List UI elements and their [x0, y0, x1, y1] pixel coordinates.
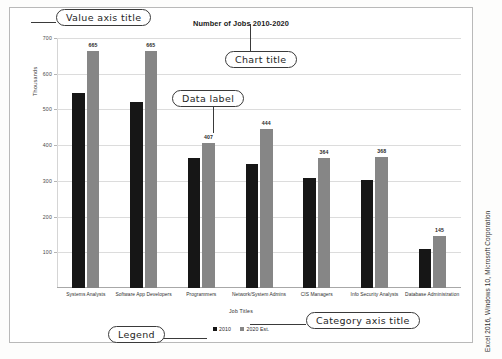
- leader-legend: [163, 338, 207, 339]
- gridline: [57, 109, 461, 110]
- category-axis-label: Programmers: [171, 291, 231, 299]
- bar-2020Est-1[interactable]: [145, 51, 158, 289]
- legend-swatch-icon: [240, 327, 244, 331]
- data-label: 665: [89, 42, 98, 48]
- category-axis-label: Info Security Analysts: [344, 291, 404, 299]
- category-axis-label: CIS Managers: [287, 291, 347, 299]
- screenshot-root: Number of Jobs 2010-2020 Thousands 10020…: [0, 0, 502, 359]
- bar-2020Est-3[interactable]: [260, 129, 273, 288]
- value-axis-title[interactable]: Thousands: [32, 67, 38, 96]
- plot-area[interactable]: 100200300400500600700665Systems Analysts…: [57, 38, 461, 288]
- value-axis-tick-label: 400: [43, 142, 52, 148]
- legend-swatch-icon: [213, 327, 217, 331]
- tick-mark: [54, 217, 57, 218]
- legend-label: 2010: [219, 326, 231, 332]
- gridline: [57, 181, 461, 182]
- callout-data-label: Data label: [172, 90, 244, 107]
- bar-2010-3[interactable]: [246, 164, 259, 288]
- gridline: [57, 217, 461, 218]
- data-label: 665: [146, 42, 155, 48]
- bar-2010-0[interactable]: [72, 93, 85, 288]
- callout-category-axis-title: Category axis title: [306, 312, 420, 329]
- value-axis-tick-label: 600: [43, 71, 52, 77]
- tick-mark: [54, 38, 57, 39]
- category-axis-line: [57, 287, 461, 288]
- gridline: [57, 145, 461, 146]
- tick-mark: [54, 181, 57, 182]
- leader-value-axis-title: [31, 22, 56, 23]
- legend-item-0[interactable]: 2010: [213, 326, 231, 332]
- bar-2020Est-5[interactable]: [375, 157, 388, 288]
- bar-2010-6[interactable]: [419, 249, 432, 288]
- legend-item-1[interactable]: 2020 Est.: [240, 326, 269, 332]
- bar-2020Est-6[interactable]: [433, 236, 446, 288]
- value-axis-tick-label: 700: [43, 35, 52, 41]
- gridline: [57, 74, 461, 75]
- value-axis-tick-label: 300: [43, 178, 52, 184]
- bar-2020Est-2[interactable]: [202, 143, 215, 288]
- gridline: [57, 252, 461, 253]
- callout-value-axis-title: Value axis title: [56, 9, 151, 26]
- value-axis-tick-label: 100: [43, 249, 52, 255]
- category-axis-label: Network/System Admins: [229, 291, 289, 299]
- bar-2010-2[interactable]: [188, 158, 201, 288]
- tick-mark: [54, 74, 57, 75]
- bar-2010-5[interactable]: [361, 180, 374, 288]
- source-credit: Excel 2016, Windows 10, Microsoft Corpor…: [484, 211, 491, 352]
- callout-chart-title: Chart title: [225, 51, 297, 68]
- data-label: 444: [262, 120, 271, 126]
- legend-label: 2020 Est.: [247, 326, 270, 332]
- leader-chart-title: [250, 24, 251, 51]
- callout-legend: Legend: [108, 326, 165, 343]
- category-axis-label: Database Administration: [402, 291, 462, 299]
- category-axis-label: Systems Analysts: [56, 291, 116, 299]
- tick-mark: [54, 252, 57, 253]
- value-axis-tick-label: 200: [43, 214, 52, 220]
- category-axis-label: Software App Developers: [114, 291, 174, 299]
- leader-data-label: [213, 107, 214, 133]
- data-label: 364: [319, 149, 328, 155]
- leader-category-axis-title: [250, 324, 306, 325]
- bar-2010-1[interactable]: [130, 102, 143, 288]
- data-label: 145: [435, 227, 444, 233]
- data-label: 407: [204, 134, 213, 140]
- gridline: [57, 38, 461, 39]
- data-label: 368: [377, 148, 386, 154]
- bar-2010-4[interactable]: [303, 178, 316, 288]
- tick-mark: [54, 145, 57, 146]
- value-axis-tick-label: 500: [43, 106, 52, 112]
- bar-2020Est-0[interactable]: [87, 51, 100, 289]
- value-axis-line: [57, 38, 58, 288]
- tick-mark: [54, 109, 57, 110]
- bar-2020Est-4[interactable]: [318, 158, 331, 288]
